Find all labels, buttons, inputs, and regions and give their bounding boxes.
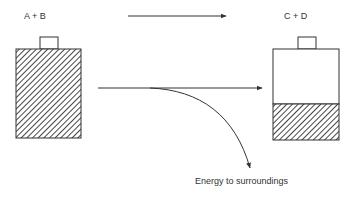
products-battery xyxy=(273,37,339,140)
reactants-label: A + B xyxy=(24,11,46,21)
products-battery-empty xyxy=(273,49,339,104)
energy-label: Energy to surroundings xyxy=(195,176,288,186)
reactants-battery-body xyxy=(16,49,81,138)
energy-release-arrow xyxy=(150,88,250,168)
products-battery-cap xyxy=(298,37,316,49)
reactants-battery-cap xyxy=(40,37,58,49)
products-battery-fill xyxy=(273,104,339,140)
products-label: C + D xyxy=(284,11,307,21)
reactants-battery xyxy=(16,37,81,138)
energy-diagram xyxy=(0,0,352,200)
